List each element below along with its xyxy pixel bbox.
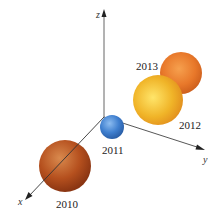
x-axis-label: x (18, 197, 22, 207)
label-2011: 2011 (102, 145, 124, 156)
sphere-2010 (39, 140, 91, 192)
z-axis-label: z (96, 10, 100, 20)
sphere-2012 (133, 75, 183, 125)
label-2013: 2013 (136, 61, 158, 72)
y-axis-label: y (203, 155, 207, 165)
z-axis-arrow-icon (102, 9, 107, 17)
label-2010: 2010 (56, 199, 78, 210)
diagram-canvas (0, 0, 220, 223)
label-2012: 2012 (179, 120, 201, 131)
sphere-2011 (100, 115, 124, 139)
3d-bubble-diagram: z y x 2010 2011 2012 2013 (0, 0, 220, 223)
y-axis-arrow-icon (196, 145, 206, 151)
